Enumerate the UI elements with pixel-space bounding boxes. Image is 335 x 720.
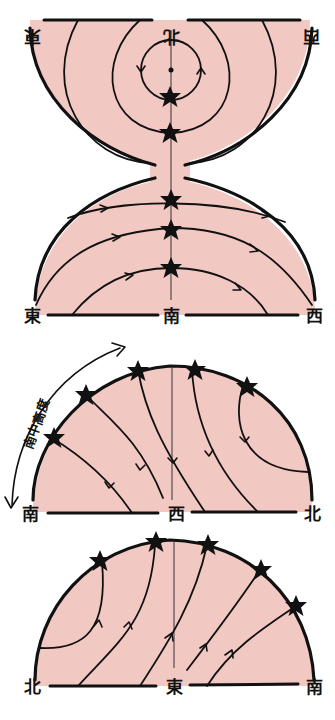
- label-top-right: 西: [303, 27, 320, 47]
- panel-west: 南中高度 南 西 北: [5, 343, 321, 524]
- label-bottom-left: 東: [24, 306, 41, 326]
- label-left: 南: [22, 504, 39, 524]
- label-left: 北: [24, 677, 41, 697]
- label-right: 南: [306, 677, 323, 697]
- label-bottom-right: 西: [306, 306, 323, 326]
- label-center: 東: [166, 677, 183, 697]
- panel-east: 北 東 南: [24, 531, 323, 697]
- label-bottom-center: 南: [163, 306, 180, 326]
- label-top-left: 東: [24, 27, 41, 47]
- label-center: 西: [168, 504, 185, 524]
- star-motion-diagram: 東 北 西 東 南 西 南中高度: [0, 0, 335, 720]
- pole-star-dot: [169, 68, 174, 73]
- label-top-center: 北: [163, 27, 180, 47]
- sky-waist: [150, 160, 190, 185]
- panel-north-south: 東 北 西 東 南 西: [24, 20, 323, 326]
- label-right: 北: [304, 504, 321, 524]
- arrow-head-icon: [112, 343, 125, 356]
